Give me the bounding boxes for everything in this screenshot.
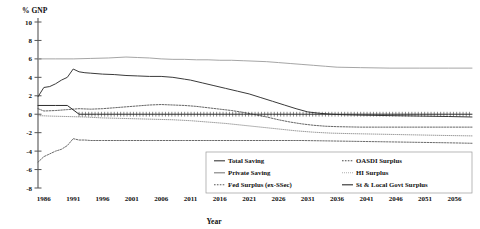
- x-tick-label: 2011: [184, 195, 198, 203]
- x-tick-label: 2001: [125, 195, 140, 203]
- series-lines: [38, 57, 472, 162]
- x-tick-label: 2056: [447, 195, 462, 203]
- x-axis-tick-labels: 1986199119962001200620112016202120262031…: [37, 195, 462, 203]
- x-tick-label: 2021: [242, 195, 257, 203]
- y-tick-label: 4: [29, 74, 33, 82]
- x-tick-label: 2041: [359, 195, 374, 203]
- y-tick-label: 6: [29, 55, 33, 63]
- y-tick-label: 10: [25, 19, 33, 27]
- x-tick-label: 2016: [213, 195, 228, 203]
- y-tick-label: 0: [29, 111, 33, 119]
- x-axis-title: Year: [207, 217, 223, 226]
- x-tick-label: 1986: [37, 195, 52, 203]
- legend-label: Fed Surplus (ex-SSec): [228, 181, 292, 189]
- legend-label: Total Saving: [228, 157, 265, 164]
- line-chart: 1086420-2-4-6-8 198619911996200120062011…: [0, 0, 480, 229]
- x-tick-label: 2026: [271, 195, 286, 203]
- legend-label: Private Saving: [228, 169, 271, 176]
- y-tick-label: -8: [26, 185, 32, 193]
- y-tick-label: -4: [26, 148, 32, 156]
- legend-label: HI Surplus: [356, 169, 389, 176]
- chart-container: 1086420-2-4-6-8 198619911996200120062011…: [0, 0, 480, 229]
- x-tick-label: 2051: [418, 195, 433, 203]
- x-tick-label: 2036: [330, 195, 345, 203]
- chart-legend: Total SavingPrivate SavingFed Surplus (e…: [206, 152, 472, 193]
- x-tick-label: 2006: [154, 195, 169, 203]
- y-tick-label: 8: [29, 37, 33, 45]
- x-tick-label: 1996: [96, 195, 111, 203]
- y-tick-label: -6: [26, 166, 32, 174]
- y-axis-tick-labels: 1086420-2-4-6-8: [25, 19, 33, 193]
- y-tick-label: -2: [26, 129, 32, 137]
- x-tick-label: 1991: [66, 195, 81, 203]
- x-tick-label: 2031: [301, 195, 316, 203]
- series-line: [38, 116, 472, 136]
- legend-label: St & Local Govt Surplus: [356, 181, 428, 188]
- y-axis-title: % GNP: [22, 6, 48, 15]
- y-tick-label: 2: [29, 92, 33, 100]
- series-line: [38, 69, 472, 117]
- series-line: [38, 57, 472, 68]
- x-tick-label: 2046: [389, 195, 404, 203]
- legend-label: OASDI Surplus: [356, 157, 402, 164]
